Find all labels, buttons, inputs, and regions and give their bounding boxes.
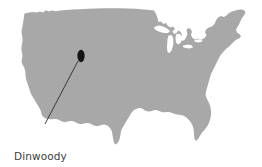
- us-map-graphic: [0, 0, 262, 167]
- us-landmass-shape: [22, 8, 246, 144]
- map-figure: Dinwoody tradition: [0, 0, 262, 167]
- dinwoody-site-marker: [77, 50, 84, 62]
